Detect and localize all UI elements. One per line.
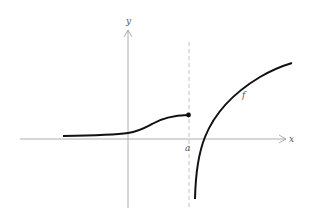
a-label: a bbox=[185, 143, 190, 153]
closed-endpoint-dot bbox=[186, 113, 191, 118]
f-label: f bbox=[241, 90, 247, 100]
curve-right bbox=[195, 63, 292, 199]
graph: x y a f bbox=[0, 0, 311, 216]
x-axis-label: x bbox=[289, 134, 294, 144]
curve-left bbox=[63, 115, 188, 136]
y-axis-label: y bbox=[125, 16, 132, 26]
